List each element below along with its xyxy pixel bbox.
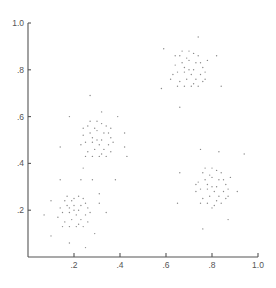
data-point bbox=[83, 135, 84, 136]
data-point bbox=[108, 132, 109, 133]
data-point bbox=[126, 156, 127, 157]
data-point bbox=[209, 174, 210, 175]
data-point bbox=[193, 53, 194, 54]
data-point bbox=[80, 144, 81, 145]
data-point bbox=[64, 221, 65, 222]
data-point bbox=[193, 83, 194, 84]
data-point bbox=[172, 74, 173, 75]
data-point bbox=[76, 226, 77, 227]
y-tick-label: .2 bbox=[17, 205, 24, 215]
data-point bbox=[87, 151, 88, 152]
data-point bbox=[200, 203, 201, 204]
data-point bbox=[64, 200, 65, 201]
data-point bbox=[237, 191, 238, 192]
data-point bbox=[177, 71, 178, 72]
data-point bbox=[69, 207, 70, 208]
data-point bbox=[207, 184, 208, 185]
data-point bbox=[99, 144, 100, 145]
data-point bbox=[223, 179, 224, 180]
data-point bbox=[227, 188, 228, 189]
data-point bbox=[43, 214, 44, 215]
data-point bbox=[96, 130, 97, 131]
data-point bbox=[244, 153, 245, 154]
data-point bbox=[110, 128, 111, 129]
data-point bbox=[60, 207, 61, 208]
data-point bbox=[202, 198, 203, 199]
data-point bbox=[87, 125, 88, 126]
data-point bbox=[204, 167, 205, 168]
data-point bbox=[110, 151, 111, 152]
data-point bbox=[89, 212, 90, 213]
data-point bbox=[115, 179, 116, 180]
data-point bbox=[221, 203, 222, 204]
data-point bbox=[85, 156, 86, 157]
data-point bbox=[66, 205, 67, 206]
data-point bbox=[50, 200, 51, 201]
data-point bbox=[216, 200, 217, 201]
data-point bbox=[175, 64, 176, 65]
data-point bbox=[87, 207, 88, 208]
data-point bbox=[99, 156, 100, 157]
data-point bbox=[198, 86, 199, 87]
data-point bbox=[101, 139, 102, 140]
data-point bbox=[89, 121, 90, 122]
data-point bbox=[195, 79, 196, 80]
data-point bbox=[83, 226, 84, 227]
y-tick-label: .6 bbox=[17, 112, 24, 122]
data-point bbox=[202, 172, 203, 173]
data-point bbox=[181, 62, 182, 63]
data-point bbox=[181, 50, 182, 51]
y-tick-label: .8 bbox=[17, 65, 24, 75]
data-point bbox=[198, 55, 199, 56]
data-point bbox=[124, 146, 125, 147]
data-point bbox=[106, 156, 107, 157]
data-point bbox=[204, 79, 205, 80]
y-tick-label: .4 bbox=[17, 158, 24, 168]
data-point bbox=[175, 55, 176, 56]
data-point bbox=[225, 184, 226, 185]
data-point bbox=[202, 81, 203, 82]
data-point bbox=[211, 167, 212, 168]
data-point bbox=[73, 205, 74, 206]
data-point bbox=[198, 36, 199, 37]
y-tick-label: 1.0 bbox=[12, 18, 24, 28]
data-point bbox=[96, 121, 97, 122]
data-point bbox=[85, 214, 86, 215]
data-point bbox=[80, 219, 81, 220]
data-point bbox=[204, 179, 205, 180]
data-point bbox=[177, 203, 178, 204]
data-point bbox=[117, 116, 118, 117]
data-point bbox=[179, 107, 180, 108]
data-point bbox=[92, 156, 93, 157]
data-point bbox=[211, 207, 212, 208]
data-point bbox=[83, 167, 84, 168]
data-point bbox=[78, 196, 79, 197]
data-point bbox=[214, 191, 215, 192]
data-point bbox=[216, 55, 217, 56]
data-point bbox=[60, 179, 61, 180]
data-point bbox=[76, 214, 77, 215]
data-point bbox=[78, 224, 79, 225]
x-tick-label: .4 bbox=[116, 260, 123, 270]
data-point bbox=[96, 139, 97, 140]
data-point bbox=[186, 79, 187, 80]
data-point bbox=[101, 111, 102, 112]
cluster-top-left bbox=[60, 95, 128, 181]
data-point bbox=[69, 212, 70, 213]
data-point bbox=[225, 198, 226, 199]
data-point bbox=[62, 226, 63, 227]
data-point bbox=[200, 188, 201, 189]
data-point bbox=[71, 219, 72, 220]
data-point bbox=[188, 69, 189, 70]
data-point bbox=[223, 191, 224, 192]
x-tick-label: 1.0 bbox=[252, 260, 264, 270]
data-point bbox=[195, 191, 196, 192]
axes: .2.4.6.81.0 .2.4.6.81.0 bbox=[12, 18, 264, 270]
data-point bbox=[83, 128, 84, 129]
data-point bbox=[73, 210, 74, 211]
data-point bbox=[101, 123, 102, 124]
data-point bbox=[230, 177, 231, 178]
data-point bbox=[211, 177, 212, 178]
data-points bbox=[43, 36, 245, 248]
data-point bbox=[94, 233, 95, 234]
